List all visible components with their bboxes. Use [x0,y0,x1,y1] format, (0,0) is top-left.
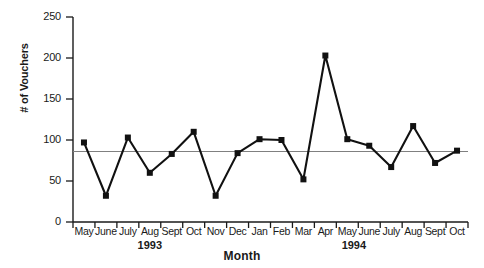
voucher-line-chart: # of Vouchers Month 050100150200250 MayJ… [0,0,484,268]
x-tick-label: Oct [435,225,479,237]
data-point-marker [235,150,241,156]
axis-ticks [66,17,468,228]
data-point-marker [257,136,263,142]
data-series-line [84,56,457,196]
y-tick-label: 0 [27,215,61,227]
y-tick-label: 100 [27,133,61,145]
data-point-marker [300,176,306,182]
x-axis-title: Month [0,249,484,263]
data-point-marker [147,170,153,176]
data-point-marker [366,143,372,149]
year-label: 1993 [126,239,174,251]
y-tick-label: 50 [27,174,61,186]
data-point-marker [103,193,109,199]
data-point-marker [410,123,416,129]
data-point-marker [322,53,328,59]
data-point-marker [278,137,284,143]
data-point-markers [81,53,460,199]
data-point-marker [388,164,394,170]
data-point-marker [454,148,460,154]
data-point-marker [81,139,87,145]
data-point-marker [191,129,197,135]
y-tick-label: 200 [27,51,61,63]
axis-lines [73,17,468,222]
y-tick-label: 250 [27,10,61,22]
data-point-marker [213,193,219,199]
year-label: 1994 [330,239,378,251]
data-point-marker [344,136,350,142]
data-point-marker [432,160,438,166]
y-axis-title: # of Vouchers [18,18,30,138]
data-point-marker [125,135,131,141]
data-point-marker [169,151,175,157]
y-tick-label: 150 [27,92,61,104]
